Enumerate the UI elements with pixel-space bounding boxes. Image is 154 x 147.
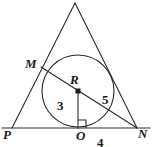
point-label-n: N [138,127,147,140]
triangle-side-apex-p [12,3,75,128]
point-label-m: M [25,57,37,70]
point-label-r: R [70,73,79,86]
measure-label-segment-on: 4 [97,136,104,147]
measure-label-segment-rn: 5 [102,93,109,106]
point-label-p: P [3,128,11,141]
point-label-o: O [76,129,85,142]
geometry-figure: M R P O N 3 5 4 [0,0,154,147]
measure-label-radius-ro: 3 [57,99,64,112]
triangle-side-apex-n [75,3,137,128]
center-dot-icon [76,89,81,94]
